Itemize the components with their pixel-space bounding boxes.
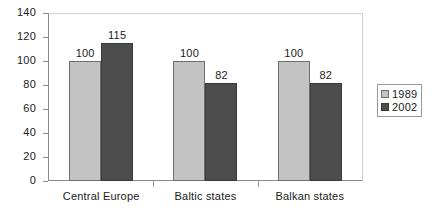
legend-swatch-icon bbox=[381, 90, 389, 98]
y-axis-tick-mark bbox=[43, 13, 48, 14]
y-axis-tick-label: 140 bbox=[17, 6, 36, 18]
bar[interactable]: 100 bbox=[69, 61, 101, 181]
y-axis-tick-label: 40 bbox=[23, 126, 36, 138]
y-axis-tick-mark bbox=[43, 61, 48, 62]
y-axis-tick-label: 0 bbox=[30, 174, 36, 186]
bar[interactable]: 115 bbox=[101, 43, 133, 181]
y-axis-tick-label: 60 bbox=[23, 102, 36, 114]
bar-value-label: 100 bbox=[76, 47, 95, 59]
bar-group: 100115 bbox=[49, 13, 153, 181]
bar[interactable]: 100 bbox=[278, 61, 310, 181]
bar[interactable]: 82 bbox=[310, 83, 342, 181]
legend-item[interactable]: 1989 bbox=[381, 87, 417, 100]
y-axis-tick-label: 120 bbox=[17, 30, 36, 42]
bar-chart: 020406080100120140 1001151008210082 Cent… bbox=[0, 0, 438, 213]
x-axis: Central EuropeBaltic statesBalkan states bbox=[48, 181, 363, 213]
y-axis-tick-mark bbox=[43, 157, 48, 158]
bar-value-label: 82 bbox=[319, 69, 332, 81]
y-axis-tick-mark bbox=[43, 109, 48, 110]
bar[interactable]: 82 bbox=[205, 83, 237, 181]
y-axis: 020406080100120140 bbox=[0, 0, 48, 182]
y-axis-tick-mark bbox=[43, 85, 48, 86]
x-axis-separator-tick bbox=[258, 181, 259, 187]
bar[interactable]: 100 bbox=[173, 61, 205, 181]
bar-group: 10082 bbox=[153, 13, 257, 181]
bar-value-label: 82 bbox=[215, 69, 228, 81]
y-axis-tick-mark bbox=[43, 133, 48, 134]
bar-value-label: 100 bbox=[284, 47, 303, 59]
bar-value-label: 100 bbox=[180, 47, 199, 59]
y-axis-tick-label: 100 bbox=[17, 54, 36, 66]
legend-item-label: 1989 bbox=[392, 88, 417, 100]
legend-item-label: 2002 bbox=[392, 101, 417, 113]
y-axis-tick-mark bbox=[43, 37, 48, 38]
x-axis-category-label: Balkan states bbox=[258, 190, 362, 202]
legend-swatch-icon bbox=[381, 103, 389, 111]
bars-layer: 1001151008210082 bbox=[49, 13, 362, 181]
legend-item[interactable]: 2002 bbox=[381, 100, 417, 113]
x-axis-separator-tick bbox=[153, 181, 154, 187]
x-axis-category-label: Central Europe bbox=[49, 190, 153, 202]
y-axis-tick-label: 20 bbox=[23, 150, 36, 162]
legend: 19892002 bbox=[377, 84, 422, 117]
x-axis-category-label: Baltic states bbox=[153, 190, 257, 202]
bar-value-label: 115 bbox=[108, 29, 126, 41]
bar-group: 10082 bbox=[258, 13, 362, 181]
y-axis-tick-label: 80 bbox=[23, 78, 36, 90]
